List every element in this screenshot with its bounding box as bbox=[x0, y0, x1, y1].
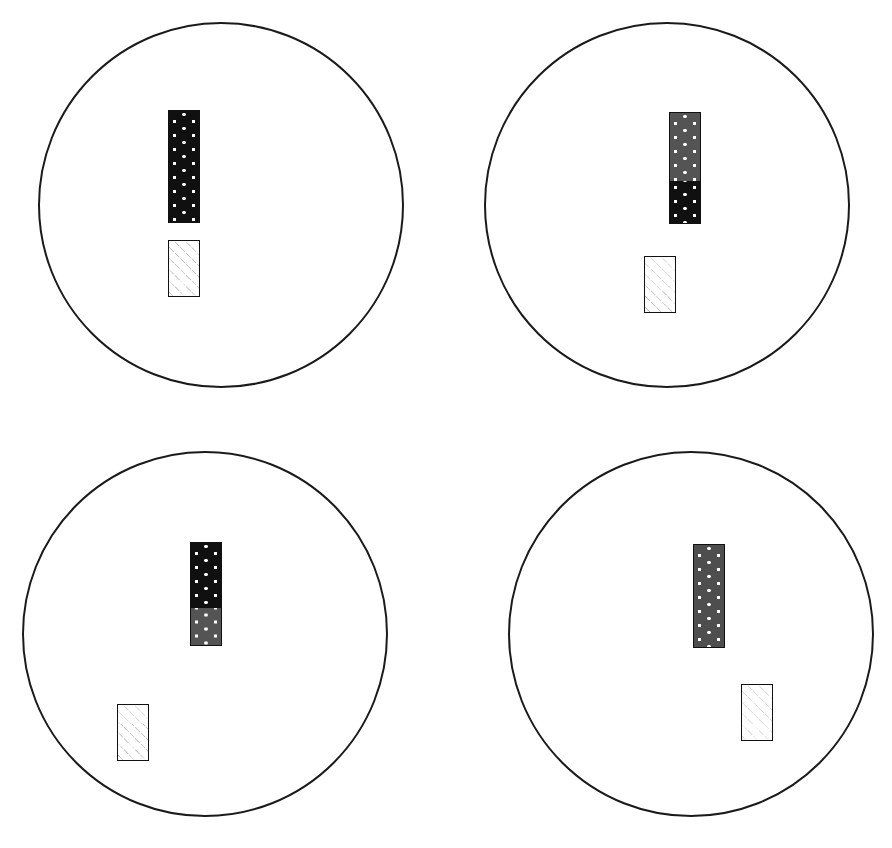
checkered-bar bbox=[644, 256, 676, 313]
panel-bottom-left bbox=[0, 424, 446, 848]
bar-segment-gray bbox=[742, 685, 772, 740]
bar-segment-gray bbox=[670, 113, 700, 181]
bar-segment-black bbox=[670, 181, 700, 223]
checkered-bar bbox=[741, 684, 773, 741]
arena-circle bbox=[508, 451, 874, 817]
panel-top-left bbox=[0, 0, 446, 424]
arena-circle bbox=[484, 22, 850, 388]
panel-bottom-right bbox=[446, 424, 892, 848]
bar-segment-black bbox=[169, 241, 199, 296]
dotted-bar bbox=[190, 542, 222, 646]
bar-segment-black bbox=[645, 286, 675, 312]
dotted-bar bbox=[693, 544, 725, 648]
arena-circle bbox=[38, 22, 404, 388]
panel-top-right bbox=[446, 0, 892, 424]
bar-segment-black bbox=[118, 724, 148, 760]
bar-segment-black bbox=[191, 543, 221, 608]
bar-segment-gray bbox=[191, 608, 221, 645]
bar-segment-black bbox=[169, 111, 199, 222]
bar-segment-gray bbox=[645, 257, 675, 286]
figure-root bbox=[0, 0, 892, 848]
checkered-bar bbox=[168, 240, 200, 297]
checkered-bar bbox=[117, 704, 149, 761]
bar-segment-gray bbox=[118, 705, 148, 724]
bar-segment-gray bbox=[694, 545, 724, 647]
dotted-bar bbox=[168, 110, 200, 223]
dotted-bar bbox=[669, 112, 701, 224]
